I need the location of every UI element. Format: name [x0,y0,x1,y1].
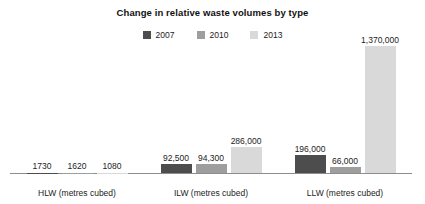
bar-value-label: 286,000 [231,136,262,146]
bar-slot [62,46,93,173]
bar-slot: 66,000 [330,46,361,173]
bar-slot: 1,370,000 [365,46,396,173]
bar-value-label: 196,000 [295,144,326,154]
bar-2013[interactable] [365,46,396,173]
legend-swatch-icon [197,31,205,39]
legend-item-2013[interactable]: 2013 [250,30,282,40]
bar-group-hlw: 1730 1620 1080 HLW (metres cubed) [10,46,144,204]
bar-slot: 94,300 [196,46,227,173]
chart-title: Change in relative waste volumes by type [0,7,425,18]
legend-item-2007[interactable]: 2007 [143,30,175,40]
bar-group-llw: 196,000 66,000 1,370,000 LLW (metres cub… [278,46,412,204]
bar-2007[interactable] [295,155,326,173]
bar-slot [97,46,128,173]
bar-2010[interactable] [330,167,361,173]
bar-slot: 92,500 [161,46,192,173]
bars-container [10,46,144,173]
category-label: ILW (metres cubed) [144,188,278,198]
bar-value-label: 66,000 [332,156,358,166]
bar-slot: 286,000 [231,46,262,173]
bar-2010[interactable] [196,164,227,173]
bar-value-label: 1,370,000 [361,35,399,45]
legend-label: 2010 [210,30,229,40]
bars-container: 92,500 94,300 286,000 [144,46,278,173]
legend-label: 2013 [263,30,282,40]
bar-group-ilw: 92,500 94,300 286,000 ILW (metres cubed) [144,46,278,204]
legend-swatch-icon [143,31,151,39]
bar-slot: 196,000 [295,46,326,173]
bar-2007[interactable] [161,164,192,173]
bar-chart: Change in relative waste volumes by type… [0,0,425,204]
bar-value-label: 94,300 [198,153,224,163]
legend-swatch-icon [250,31,258,39]
plot-area: 1730 1620 1080 HLW (metres cubed) [0,46,425,204]
bar-value-label: 92,500 [163,153,189,163]
category-label: HLW (metres cubed) [10,188,144,198]
bars-container: 196,000 66,000 1,370,000 [278,46,412,173]
bar-slot [27,46,58,173]
legend-label: 2007 [156,30,175,40]
legend-item-2010[interactable]: 2010 [197,30,229,40]
bar-2013[interactable] [231,147,262,174]
category-label: LLW (metres cubed) [278,188,412,198]
